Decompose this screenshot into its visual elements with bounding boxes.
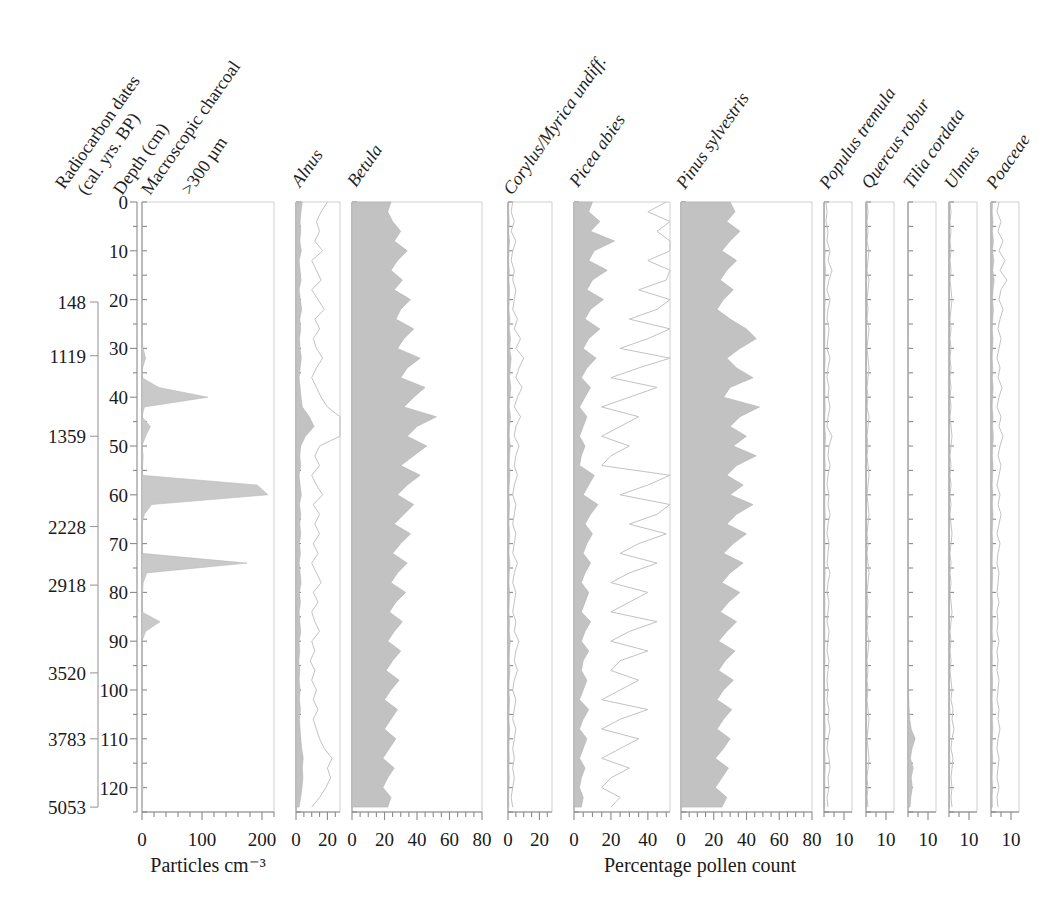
x-tick-label: 40 [737,829,756,850]
panel-pinus-sylvestris: 020406080 [676,202,821,850]
radiocarbon-date-label: 2228 [48,517,86,538]
panel-ulmus: 10 [949,202,979,850]
taxon-label-pinus-sylvestris: Pinus sylvestris [671,89,752,193]
depth-tick-label: 50 [109,436,128,457]
depth-tick-label: 120 [100,778,129,799]
depth-tick-label: 10 [109,241,128,262]
x-tick-label: 10 [835,829,854,850]
depth-tick-label: 80 [109,582,128,603]
x-tick-label: 40 [408,829,427,850]
depth-axis: 0102030405060708090100110120 [100,192,138,812]
exaggerated-curve-picea-abies [602,202,670,807]
x-tick-label: 40 [638,829,657,850]
exaggerated-curve-quercus-robur [867,202,869,807]
radiocarbon-date-label: 3783 [48,729,86,750]
taxon-label-picea-abies: Picea abies [564,110,629,191]
caption-particles: Particles cm⁻³ [150,854,265,876]
panel-picea-abies: 02040 [569,202,670,850]
radiocarbon-date-label: 5053 [48,797,86,818]
exaggerated-curve-poaceae [997,202,1007,807]
curve-alnus [296,202,314,807]
depth-tick-label: 40 [109,387,128,408]
x-tick-label: 0 [569,829,579,850]
panel-betula: 020406080 [347,202,491,850]
x-tick-label: 20 [601,829,620,850]
panel-quercus-robur: 10 [866,202,896,850]
panel-corylus-myrica-undiff: 020 [503,202,552,850]
curve-macroscopic-charcoal [142,202,268,807]
x-tick-label: 0 [347,829,357,850]
x-tick-label: 10 [877,829,896,850]
panel-populus-tremula: 10 [824,202,854,850]
panel-tilia-cordata: 10 [908,202,938,850]
depth-tick-label: 70 [109,534,128,555]
x-tick-label: 20 [318,829,337,850]
x-tick-label: 60 [770,829,789,850]
taxon-label-alnus: Alnus [286,145,326,191]
pollen-diagram-svg: Radiocarbon dates(cal. yrs. BP)Depth (cm… [0,0,1044,908]
taxon-label-ulmus: Ulmus [940,142,983,192]
panel-macroscopic-charcoal: 0100200 [137,202,276,850]
caption-percentage-pollen: Percentage pollen count [604,854,797,877]
radiocarbon-date-label: 2918 [48,575,86,596]
curve-tilia-cordata [908,202,915,807]
x-tick-label: 0 [137,829,147,850]
taxon-label-poaceae: Poaceae [981,130,1034,193]
curve-ulmus [949,202,950,807]
x-tick-label: 0 [291,829,301,850]
x-tick-label: 60 [440,829,459,850]
x-tick-label: 0 [503,829,513,850]
curve-pinus-sylvestris [681,202,760,807]
depth-tick-label: 100 [100,680,129,701]
taxon-label-corylus-myrica-undiff: Corylus/Myrica undiff. [499,52,610,199]
exaggerated-curve-populus-tremula [826,202,832,807]
curve-quercus-robur [866,202,867,807]
exaggerated-curve-alnus [310,202,340,807]
x-tick-label: 20 [704,829,723,850]
x-tick-label: 200 [248,829,277,850]
x-tick-label: 10 [960,829,979,850]
depth-tick-label: 20 [109,290,128,311]
panel-alnus: 020 [291,202,340,850]
curve-picea-abies [574,202,615,807]
radiocarbon-date-axis: 1481119135922282918352037835053 [48,292,98,818]
x-tick-label: 100 [188,829,217,850]
depth-tick-label: 0 [119,192,129,213]
radiocarbon-date-label: 1359 [48,426,86,447]
depth-tick-label: 110 [100,729,128,750]
exaggerated-curve-ulmus [950,202,954,807]
radiocarbon-date-label: 3520 [48,663,86,684]
radiocarbon-date-label: 1119 [49,346,86,367]
curve-populus-tremula [824,202,826,807]
x-tick-label: 20 [530,829,549,850]
curve-corylus-myrica-undiff [508,202,511,807]
curve-betula [352,202,437,807]
taxon-label-betula: Betula [343,140,386,190]
pollen-diagram-figure: Radiocarbon dates(cal. yrs. BP)Depth (cm… [0,0,1044,908]
exaggerated-curve-corylus-myrica-undiff [511,202,524,807]
x-tick-label: 10 [919,829,938,850]
x-tick-label: 0 [676,829,686,850]
x-tick-label: 10 [1002,829,1021,850]
panel-poaceae: 10 [991,202,1021,850]
depth-tick-label: 60 [109,485,128,506]
depth-tick-label: 90 [109,631,128,652]
radiocarbon-date-label: 148 [58,292,87,313]
x-tick-label: 80 [803,829,822,850]
curve-poaceae [991,202,994,807]
x-tick-label: 80 [473,829,492,850]
x-tick-label: 20 [375,829,394,850]
depth-tick-label: 30 [109,338,128,359]
